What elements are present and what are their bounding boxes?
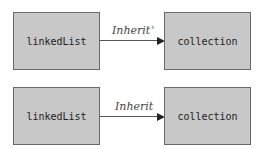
source-node-linkedlist: linkedList <box>13 12 100 70</box>
edge-label: Inherit+ <box>112 23 155 37</box>
inherit-edge-line <box>100 116 157 117</box>
source-node-linkedlist: linkedList <box>13 87 100 145</box>
inherit-edge-line <box>100 40 157 41</box>
target-node-collection: collection <box>164 12 251 70</box>
target-node-collection: collection <box>164 87 251 145</box>
edge-label: Inherit <box>115 99 153 113</box>
